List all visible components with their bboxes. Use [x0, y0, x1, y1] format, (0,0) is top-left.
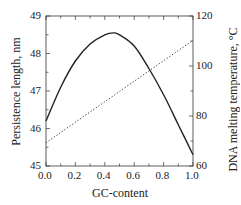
x-axis-title: GC-content: [92, 186, 148, 201]
y-axis-title: Persistence length, nm: [9, 27, 24, 157]
x-tick-label: 0.6: [126, 170, 140, 181]
melting-temperature-line: [46, 40, 193, 143]
x-tick-label: 1.0: [185, 170, 199, 181]
y-tick-label: 48: [30, 48, 41, 59]
x-tick-label: 0.8: [156, 170, 170, 181]
y2-axis-title: DNA melting temperature, °C: [226, 25, 241, 175]
x-tick-label: 0.2: [67, 170, 81, 181]
chart-plot: [0, 0, 240, 205]
y-tick-label: 47: [30, 85, 41, 96]
y-tick-label: 46: [30, 123, 41, 134]
x-tick-label: 0.4: [97, 170, 111, 181]
y2-tick-label: 80: [196, 110, 207, 121]
persistence-length-line: [46, 33, 193, 155]
y2-tick-label: 120: [196, 10, 213, 21]
y2-tick-label: 100: [196, 60, 213, 71]
y-tick-label: 45: [30, 160, 41, 171]
y2-tick-label: 60: [196, 160, 207, 171]
y-tick-label: 49: [30, 10, 41, 21]
x-tick-label: 0.0: [38, 170, 52, 181]
